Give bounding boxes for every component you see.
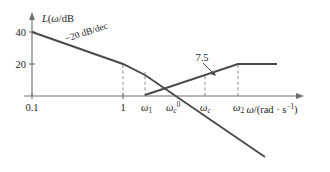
- y-tick-label-40: 40: [16, 27, 27, 38]
- x-axis-title: ω/(rad · s−1): [246, 103, 298, 116]
- x-tick-label-1: 1: [120, 102, 125, 113]
- dashed-guides: [123, 63, 238, 96]
- x-axis-arrowhead: [296, 93, 304, 99]
- bode-magnitude-plot: 40 20 L(ω/dB 0.1 1 ω1 ωc0 ωc ω2 ω/(rad: [0, 0, 330, 172]
- y-axis-arrowhead: [29, 12, 35, 20]
- x-tick-label-omega-1: ω1: [141, 102, 152, 115]
- y-tick-label-20: 20: [16, 59, 27, 70]
- svg-text:L(ω/dB: L(ω/dB: [41, 13, 74, 25]
- plot-canvas: 40 20 L(ω/dB 0.1 1 ω1 ωc0 ωc ω2 ω/(rad: [0, 0, 330, 172]
- x-tick-label-0p1: 0.1: [25, 102, 38, 113]
- gain-margin-label: 7.5: [195, 52, 208, 63]
- y-axis-title: L(ω/dB: [41, 13, 74, 25]
- x-axis: [24, 93, 304, 99]
- y-axis-title-unit: /dB: [59, 13, 74, 24]
- x-tick-label-omega-c-0: ωc0: [166, 101, 181, 115]
- y-axis-title-omega: ω: [51, 13, 58, 24]
- x-tick-label-omega-2: ω2: [233, 102, 244, 115]
- series-compensator-magnitude: [145, 64, 277, 95]
- y-axis: [29, 12, 35, 96]
